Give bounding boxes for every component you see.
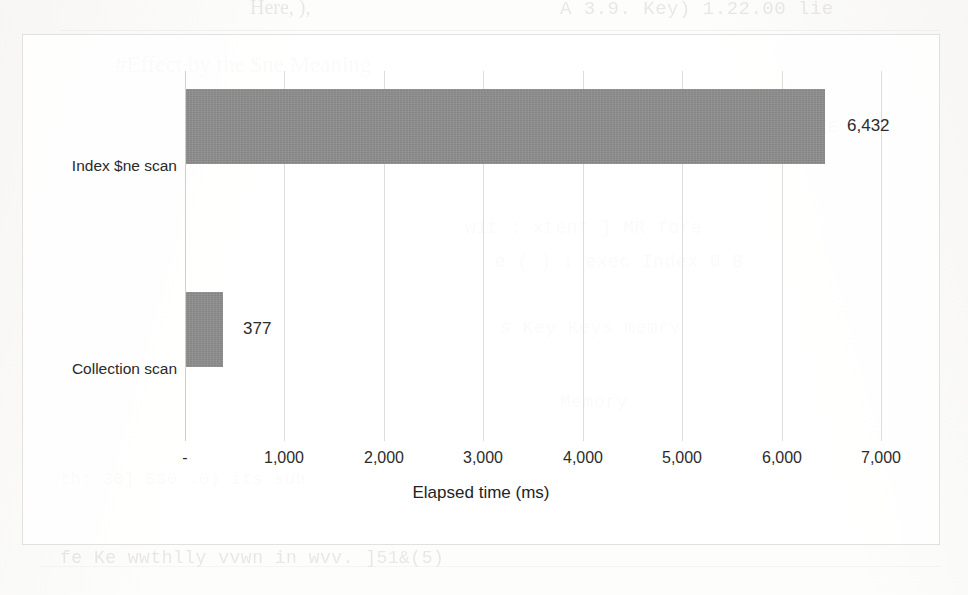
plot-area: 6,432 377	[185, 71, 881, 441]
scan-artifact-line	[40, 566, 940, 567]
xtick-label-5000: 5,000	[662, 449, 702, 467]
category-label-collection-scan: Collection scan	[29, 360, 177, 378]
xtick-label-2000: 2,000	[364, 449, 404, 467]
bar-index-ne-scan	[186, 89, 825, 164]
chart-frame: Index $ne scan Collection scan 6,432 377…	[22, 34, 940, 545]
ghost-text-line: A 3.9. Key) 1.22.00 lie	[560, 0, 834, 20]
scan-artifact-line	[60, 30, 940, 31]
xtick-label-7000: 7,000	[861, 449, 901, 467]
xtick-label-0: -	[182, 449, 187, 467]
data-label-collection-scan: 377	[243, 319, 271, 339]
ghost-text-line: fe Ke wwthlly vvwn in wvv. ]51&(5)	[60, 548, 444, 568]
xtick-label-1000: 1,000	[264, 449, 304, 467]
data-label-index-ne-scan: 6,432	[847, 116, 890, 136]
ghost-text-line: Here, ),	[250, 0, 311, 19]
xtick-label-3000: 3,000	[463, 449, 503, 467]
xtick-label-4000: 4,000	[563, 449, 603, 467]
xtick-label-6000: 6,000	[762, 449, 802, 467]
category-label-index-ne-scan: Index $ne scan	[29, 157, 177, 175]
x-axis-title: Elapsed time (ms)	[23, 483, 939, 503]
bar-collection-scan	[186, 292, 223, 367]
